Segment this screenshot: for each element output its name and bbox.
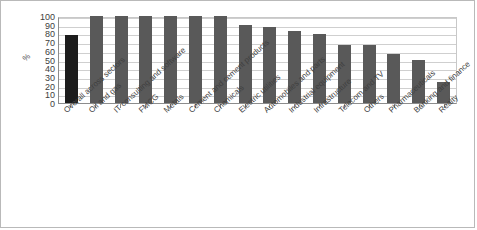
y-axis-tick-label: 30 [45,74,55,83]
y-axis-tick-label: 60 [45,48,55,57]
y-axis-tick-label: 50 [45,57,55,66]
y-axis-tick-label: 10 [45,91,55,100]
bar[interactable] [65,35,78,103]
y-axis-tick-label: 40 [45,65,55,74]
bar-slot [183,18,208,103]
bar-slot [382,18,407,103]
x-axis-category-labels: Overall across sectorsOil and gasIT cons… [58,108,457,226]
y-axis-tick-label: 0 [50,100,55,109]
y-axis-tick-label: 100 [40,13,55,22]
bar[interactable] [189,16,202,103]
y-axis-tick-label: 20 [45,83,55,92]
y-axis-tick-label: 80 [45,30,55,39]
y-axis-tick-label: 70 [45,39,55,48]
y-axis-tick-label: 90 [45,22,55,31]
y-axis-tick-labels: 0102030405060708090100 [29,12,55,106]
bar[interactable] [387,54,400,103]
bar-chart-figure: % 0102030405060708090100 Overall across … [0,0,475,228]
